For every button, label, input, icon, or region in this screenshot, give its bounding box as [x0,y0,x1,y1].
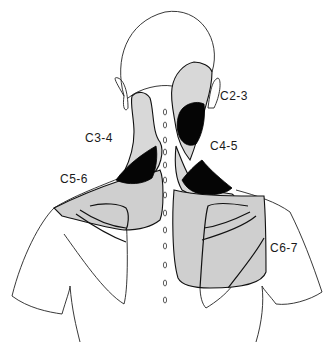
zone-c6-7 [173,190,266,288]
left-torso [70,286,80,342]
right-torso [256,286,263,342]
label-c3-4: C3-4 [85,131,113,145]
label-c4-5: C4-5 [210,139,238,153]
label-c5-6: C5-6 [60,172,88,186]
core-c4-5 [182,160,232,195]
right-arm-inner [200,286,232,308]
spine-markers [163,109,166,303]
label-c6-7: C6-7 [270,241,298,255]
label-c2-3: C2-3 [220,89,248,103]
body-illustration [0,0,335,345]
referral-pain-diagram: C2-3 C3-4 C4-5 C5-6 C6-7 [0,0,335,345]
